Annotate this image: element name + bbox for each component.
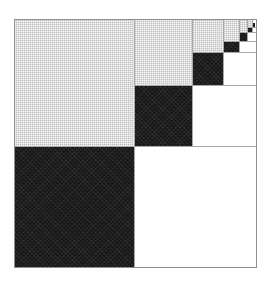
matrix-gridline-h-10 xyxy=(239,32,256,33)
matrix-block-dark-1 xyxy=(15,146,134,267)
matrix-block-dark-4 xyxy=(223,41,239,52)
matrix-block-gray-1 xyxy=(15,20,134,146)
figure-canvas: Nested staircase block pattern: large li… xyxy=(0,0,274,285)
matrix-gridline-h-11 xyxy=(247,27,256,28)
matrix-block-gray-2 xyxy=(134,20,192,85)
matrix-gridline-v-4 xyxy=(247,20,248,41)
matrix-block-dark-5 xyxy=(239,32,247,41)
matrix-block-white-1 xyxy=(134,146,256,267)
matrix-gridline-v-1 xyxy=(192,20,193,146)
matrix-gridline-h-8 xyxy=(192,52,256,53)
matrix-gridline-v-0 xyxy=(134,20,135,267)
matrix-block-white-4 xyxy=(239,41,256,52)
matrix-outline xyxy=(14,19,257,268)
matrix-gridline-h-6 xyxy=(15,146,256,147)
matrix-gridline-h-7 xyxy=(134,85,256,86)
matrix-block-dark-3 xyxy=(192,52,223,85)
matrix-gridline-v-5 xyxy=(252,20,253,32)
matrix-block-gray-3 xyxy=(192,20,223,52)
matrix-block-white-2 xyxy=(192,85,256,146)
matrix-block-gray-4 xyxy=(223,20,239,41)
matrix-gridline-v-3 xyxy=(239,20,240,52)
matrix-block-white-5 xyxy=(247,32,256,41)
matrix-block-dark-2 xyxy=(134,85,192,146)
matrix-block-white-3 xyxy=(223,52,256,85)
matrix-gridline-h-9 xyxy=(223,41,256,42)
matrix-block-gray-5 xyxy=(239,20,247,32)
